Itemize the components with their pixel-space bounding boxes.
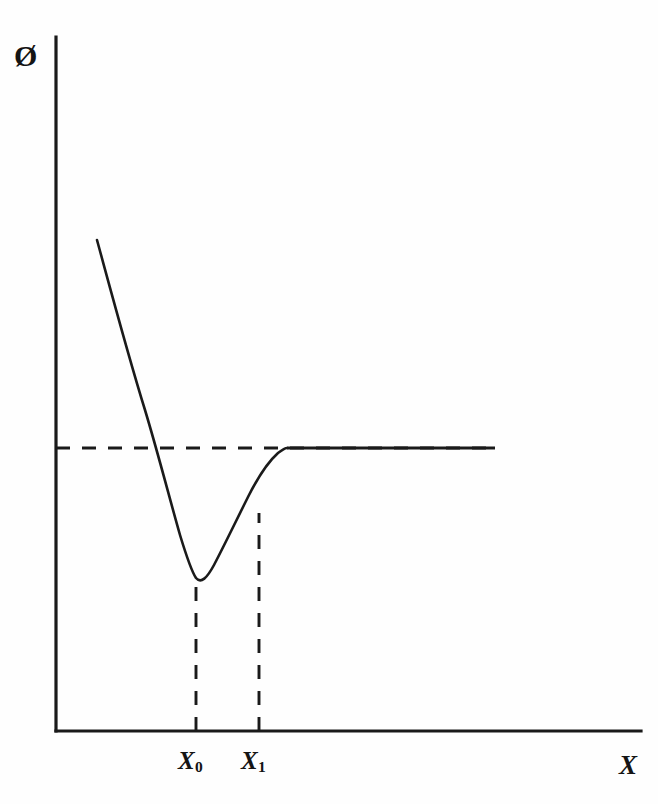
y-axis-label: Ø <box>14 41 37 71</box>
potential-curve-group <box>97 240 287 580</box>
x-tick-label-x1: X1 <box>241 748 265 773</box>
x-axis-label: X <box>619 752 637 779</box>
drop-lines-group <box>196 513 259 731</box>
potential-energy-plot <box>0 0 658 804</box>
axes-group <box>56 37 641 731</box>
x1-base: X <box>241 747 258 774</box>
x1-subscript: 1 <box>258 758 266 775</box>
potential-energy-curve <box>97 240 287 580</box>
x-tick-label-x0: X0 <box>178 748 202 773</box>
figure-canvas: Ø X X0 X1 <box>0 0 658 804</box>
x0-base: X <box>178 747 195 774</box>
x0-subscript: 0 <box>195 758 203 775</box>
